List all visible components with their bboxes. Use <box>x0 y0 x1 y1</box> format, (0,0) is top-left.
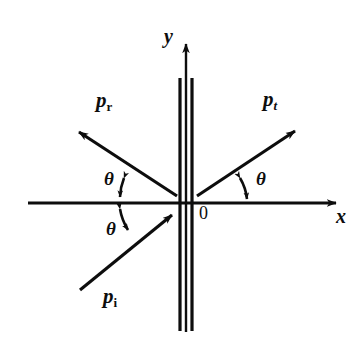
transmitted-momentum-vector <box>197 131 295 196</box>
incident-momentum-symbol: p <box>103 284 114 308</box>
reflected-momentum-subscript: r <box>107 99 113 114</box>
incident-momentum-subscript: i <box>114 295 118 310</box>
angle-arc-transmitted <box>240 178 247 199</box>
physics-diagram-canvas: y x 0 pr pt pi θ θ θ <box>0 0 358 339</box>
y-axis-label: y <box>164 26 173 46</box>
reflected-momentum-label: pr <box>96 90 112 111</box>
theta-reflected-label: θ <box>104 169 114 188</box>
transmitted-momentum-label: pt <box>263 89 277 110</box>
angle-arc-incident <box>120 209 128 230</box>
origin-label: 0 <box>199 204 208 222</box>
transmitted-momentum-subscript: t <box>274 98 278 113</box>
incident-momentum-label: pi <box>103 286 117 307</box>
reflected-momentum-vector <box>79 132 177 196</box>
reflected-momentum-symbol: p <box>96 88 107 112</box>
theta-transmitted-label: θ <box>256 169 266 188</box>
transmitted-momentum-symbol: p <box>263 87 274 111</box>
angle-arc-reflected <box>120 178 124 197</box>
x-axis-label: x <box>336 206 346 226</box>
theta-incident-label: θ <box>106 219 116 238</box>
diagram-svg <box>0 0 358 339</box>
